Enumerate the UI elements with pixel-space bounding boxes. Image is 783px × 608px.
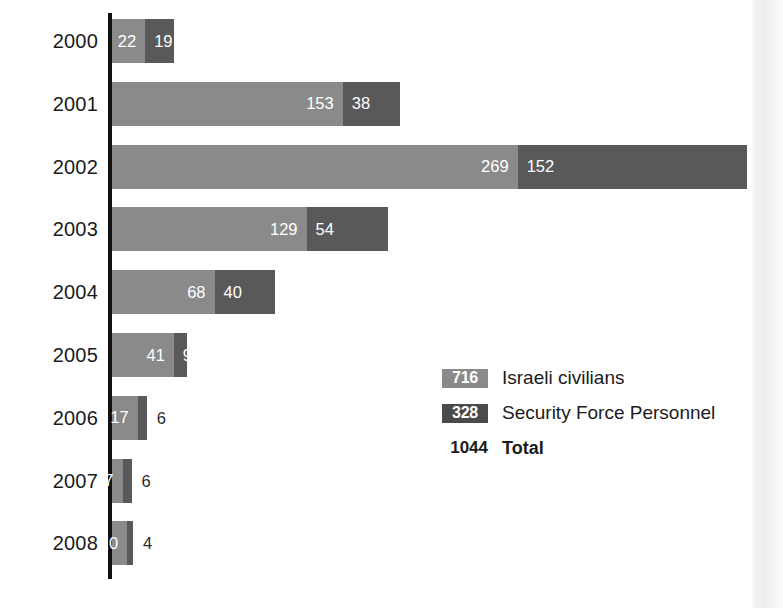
legend-value-security-force-personnel: 328 bbox=[452, 404, 478, 422]
bar-value-civilians-2005: 41 bbox=[146, 346, 173, 365]
year-label-2007: 2007 bbox=[0, 459, 98, 503]
stacked-bar-2000: 2219 bbox=[112, 19, 174, 63]
year-label-2002: 2002 bbox=[0, 145, 98, 189]
stacked-bar-chart: 2000221920011533820022691522003129542004… bbox=[0, 0, 783, 608]
bar-row: 20046840 bbox=[0, 270, 783, 314]
stacked-bar-2008: 10 bbox=[112, 521, 133, 565]
year-label-2005: 2005 bbox=[0, 333, 98, 377]
stacked-bar-2005: 419 bbox=[112, 333, 187, 377]
legend-label-total: Total bbox=[502, 438, 544, 459]
legend-label-security-force-personnel: Security Force Personnel bbox=[502, 402, 715, 424]
bar-row: 200115338 bbox=[0, 82, 783, 126]
legend-item-total: 1044 Total bbox=[442, 433, 752, 463]
bar-row: 2008104 bbox=[0, 521, 783, 565]
bar-segment-civilians-2005: 41 bbox=[112, 333, 174, 377]
stacked-bar-2004: 6840 bbox=[112, 270, 275, 314]
bar-value-civilians-2002: 269 bbox=[481, 157, 518, 176]
bar-row: 20002219 bbox=[0, 19, 783, 63]
bar-segment-civilians-2001: 153 bbox=[112, 82, 343, 126]
bar-segment-security-2006 bbox=[138, 396, 147, 440]
year-label-2000: 2000 bbox=[0, 19, 98, 63]
bar-value-civilians-2006: 17 bbox=[110, 408, 137, 427]
legend-label-israeli-civilians: Israeli civilians bbox=[502, 367, 624, 389]
bar-segment-civilians-2006: 17 bbox=[112, 396, 138, 440]
bar-value-civilians-2001: 153 bbox=[306, 94, 343, 113]
bar-segment-civilians-2003: 129 bbox=[112, 207, 307, 251]
year-label-2001: 2001 bbox=[0, 82, 98, 126]
year-label-2008: 2008 bbox=[0, 521, 98, 565]
bar-value-civilians-2007: 7 bbox=[104, 471, 122, 490]
bar-value-security-2006: 6 bbox=[157, 396, 166, 440]
bar-value-security-2002: 152 bbox=[518, 157, 747, 176]
bar-value-security-2008: 4 bbox=[143, 521, 152, 565]
bar-segment-security-2007 bbox=[123, 459, 132, 503]
stacked-bar-2001: 15338 bbox=[112, 82, 400, 126]
bar-value-security-2001: 38 bbox=[343, 94, 400, 113]
bar-segment-security-2000: 19 bbox=[145, 19, 174, 63]
bar-value-civilians-2008: 10 bbox=[100, 534, 127, 553]
bar-segment-civilians-2007: 7 bbox=[112, 459, 123, 503]
bar-value-security-2007: 6 bbox=[142, 459, 151, 503]
stacked-bar-2002: 269152 bbox=[112, 145, 747, 189]
plot-area: 2000221920011533820022691522003129542004… bbox=[0, 0, 783, 608]
bar-segment-civilians-2004: 68 bbox=[112, 270, 215, 314]
legend-value-total: 1044 bbox=[442, 438, 488, 458]
year-label-2003: 2003 bbox=[0, 207, 98, 251]
bar-segment-civilians-2000: 22 bbox=[112, 19, 145, 63]
bar-value-security-2003: 54 bbox=[307, 220, 388, 239]
bar-segment-civilians-2008: 10 bbox=[112, 521, 127, 565]
bar-value-security-2000: 19 bbox=[145, 32, 174, 51]
bar-value-security-2005: 9 bbox=[174, 346, 188, 365]
bar-segment-security-2001: 38 bbox=[343, 82, 400, 126]
legend-item-israeli-civilians: 716 Israeli civilians bbox=[442, 363, 752, 393]
stacked-bar-2003: 12954 bbox=[112, 207, 388, 251]
bar-segment-security-2003: 54 bbox=[307, 207, 388, 251]
bar-row: 2002269152 bbox=[0, 145, 783, 189]
bar-segment-security-2002: 152 bbox=[518, 145, 747, 189]
bar-value-civilians-2004: 68 bbox=[187, 283, 214, 302]
bar-row: 200312954 bbox=[0, 207, 783, 251]
legend-item-security-force-personnel: 328 Security Force Personnel bbox=[442, 398, 752, 428]
year-label-2006: 2006 bbox=[0, 396, 98, 440]
bar-segment-security-2004: 40 bbox=[215, 270, 275, 314]
stacked-bar-2007: 7 bbox=[112, 459, 132, 503]
bar-value-civilians-2000: 22 bbox=[118, 32, 145, 51]
bar-segment-security-2008 bbox=[127, 521, 133, 565]
chart-legend: 716 Israeli civilians 328 Security Force… bbox=[442, 363, 752, 468]
bar-value-security-2004: 40 bbox=[215, 283, 275, 302]
stacked-bar-2006: 17 bbox=[112, 396, 147, 440]
legend-swatch-israeli-civilians: 716 bbox=[442, 369, 488, 388]
legend-swatch-security-force-personnel: 328 bbox=[442, 404, 488, 423]
bar-segment-security-2005: 9 bbox=[174, 333, 188, 377]
bar-value-civilians-2003: 129 bbox=[270, 220, 307, 239]
year-label-2004: 2004 bbox=[0, 270, 98, 314]
legend-value-israeli-civilians: 716 bbox=[452, 369, 478, 387]
bar-segment-civilians-2002: 269 bbox=[112, 145, 518, 189]
